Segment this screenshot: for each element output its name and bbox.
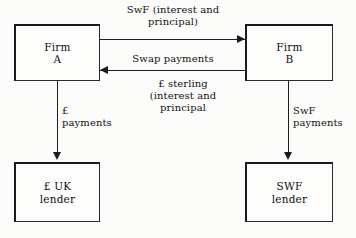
edge-label-swf-interest-principal: SwF (interest and principal) [112, 4, 234, 28]
connector-firm-a-to-uk-lender [57, 81, 58, 158]
connector-firm-b-to-firm-a [100, 70, 245, 71]
node-uk-lender-label: £ UK lender [40, 180, 76, 205]
node-firm-b-label: Firm B [276, 41, 302, 66]
arrowhead-left-icon [100, 66, 108, 74]
node-firm-a: Firm A [14, 24, 100, 81]
edge-label-swf-payments: SwF payments [293, 105, 353, 129]
arrowhead-right-icon [237, 35, 245, 43]
edge-label-gbp-payments: £ payments [62, 105, 140, 129]
node-swf-lender-label: SWF lender [272, 180, 308, 205]
node-swf-lender: SWF lender [245, 162, 333, 222]
currency-swap-diagram: Firm A Firm B £ UK lender SWF lender SwF… [0, 0, 356, 238]
node-uk-lender: £ UK lender [14, 162, 100, 222]
edge-label-swap-payments: Swap payments [112, 53, 234, 65]
connector-firm-b-to-swf-lender [288, 81, 289, 158]
arrowhead-down-left-icon [53, 152, 61, 160]
arrowhead-down-right-icon [284, 152, 292, 160]
connector-firm-a-to-firm-b [100, 39, 245, 40]
node-firm-a-label: Firm A [44, 41, 70, 66]
node-firm-b: Firm B [245, 24, 333, 81]
edge-label-sterling-interest-principal: £ sterling (interest and principal [128, 78, 238, 115]
